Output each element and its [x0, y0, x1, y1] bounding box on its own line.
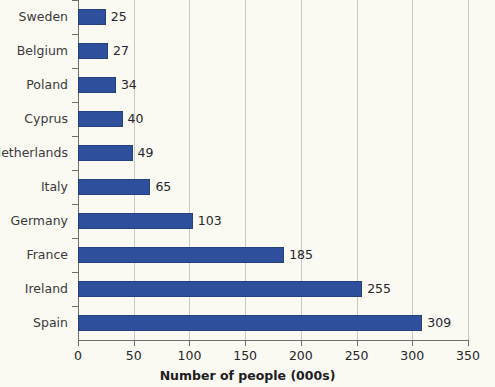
bar-value-label: 255 [362, 281, 391, 297]
category-label-ireland: Ireland [25, 281, 68, 297]
bar-value-label: 34 [116, 77, 137, 93]
bar-france [78, 247, 284, 263]
bar-row: 27 [78, 34, 468, 68]
y-tick [72, 204, 78, 205]
bar-value-label: 65 [150, 179, 171, 195]
bar-row: 309 [78, 306, 468, 340]
x-tick-0 [78, 340, 79, 346]
x-tick-300 [412, 340, 413, 346]
bar-sweden [78, 9, 106, 25]
y-tick [72, 102, 78, 103]
bar-row: 255 [78, 272, 468, 306]
x-tick-label-350: 350 [456, 348, 480, 363]
bar-row: 65 [78, 170, 468, 204]
category-label-italy: Italy [41, 179, 68, 195]
y-tick-top [72, 0, 78, 1]
category-label-poland: Poland [26, 77, 68, 93]
x-tick-100 [189, 340, 190, 346]
x-tick-label-0: 0 [74, 348, 82, 363]
category-label-spain: Spain [33, 315, 68, 331]
y-tick [72, 306, 78, 307]
category-label-cyprus: Cyprus [24, 111, 68, 127]
x-tick-200 [301, 340, 302, 346]
gridline-350 [468, 0, 469, 340]
category-label-sweden: Sweden [19, 9, 68, 25]
y-tick [72, 136, 78, 137]
x-tick-350 [468, 340, 469, 346]
bar-ireland [78, 281, 362, 297]
bar-value-label: 25 [106, 9, 127, 25]
bar-row: 25 [78, 0, 468, 34]
category-label-germany: Germany [11, 213, 68, 229]
bar-cyprus [78, 111, 123, 127]
bar-row: 40 [78, 102, 468, 136]
x-tick-label-50: 50 [126, 348, 142, 363]
bar-value-label: 103 [193, 213, 222, 229]
x-axis-line [78, 340, 469, 341]
category-label-france: France [26, 247, 68, 263]
x-tick-250 [357, 340, 358, 346]
y-tick [72, 238, 78, 239]
bar-row: 103 [78, 204, 468, 238]
bar-row: 185 [78, 238, 468, 272]
x-tick-50 [134, 340, 135, 346]
bar-spain [78, 315, 422, 331]
x-tick-150 [245, 340, 246, 346]
x-tick-label-100: 100 [177, 348, 201, 363]
bar-row: 34 [78, 68, 468, 102]
x-tick-label-200: 200 [289, 348, 313, 363]
bar-belgium [78, 43, 108, 59]
bar-italy [78, 179, 150, 195]
y-tick [72, 34, 78, 35]
bar-value-label: 40 [123, 111, 144, 127]
y-tick [72, 68, 78, 69]
y-tick [72, 170, 78, 171]
x-tick-label-250: 250 [345, 348, 369, 363]
bar-row: 49 [78, 136, 468, 170]
x-tick-label-300: 300 [400, 348, 424, 363]
bar-value-label: 185 [284, 247, 313, 263]
plot-area: 252734404965103185255309 [78, 0, 468, 340]
bar-chart: 252734404965103185255309 Number of peopl… [0, 0, 495, 387]
category-label-belgium: Belgium [17, 43, 68, 59]
y-tick [72, 272, 78, 273]
category-label-netherlands: Netherlands [0, 145, 68, 161]
bar-value-label: 27 [108, 43, 129, 59]
bar-germany [78, 213, 193, 229]
bar-value-label: 309 [422, 315, 451, 331]
bar-value-label: 49 [133, 145, 154, 161]
x-tick-label-150: 150 [233, 348, 257, 363]
bar-poland [78, 77, 116, 93]
x-axis-title: Number of people (000s) [0, 368, 495, 383]
bar-netherlands [78, 145, 133, 161]
